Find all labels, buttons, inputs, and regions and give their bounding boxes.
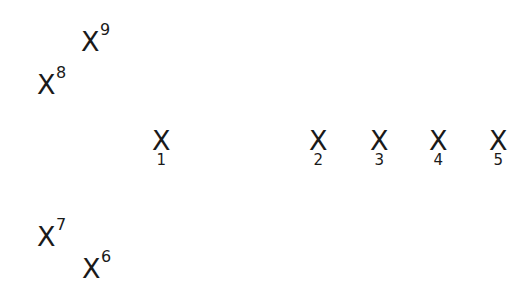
marker-7: X 7 (37, 223, 56, 250)
x-glyph: X (82, 255, 101, 282)
marker-label: 7 (56, 217, 66, 233)
x-glyph: X (37, 71, 56, 98)
marker-label: 8 (56, 65, 66, 81)
x-glyph: X (309, 127, 328, 154)
marker-8: X 8 (37, 71, 56, 98)
x-glyph: X (81, 28, 100, 55)
marker-1: X 1 (152, 127, 171, 154)
marker-2: X 2 (309, 127, 328, 154)
x-glyph: X (37, 223, 56, 250)
marker-9: X 9 (81, 28, 100, 55)
marker-label: 4 (433, 153, 443, 168)
marker-3: X 3 (370, 127, 389, 154)
marker-label: 6 (101, 249, 111, 265)
marker-label: 3 (374, 153, 384, 168)
x-glyph: X (370, 127, 389, 154)
marker-label: 5 (493, 153, 503, 168)
marker-label: 2 (313, 153, 323, 168)
marker-label: 9 (100, 22, 110, 38)
x-glyph: X (152, 127, 171, 154)
x-glyph: X (429, 127, 448, 154)
marker-4: X 4 (429, 127, 448, 154)
marker-6: X 6 (82, 255, 101, 282)
marker-5: X 5 (489, 127, 508, 154)
x-glyph: X (489, 127, 508, 154)
marker-label: 1 (156, 153, 166, 168)
